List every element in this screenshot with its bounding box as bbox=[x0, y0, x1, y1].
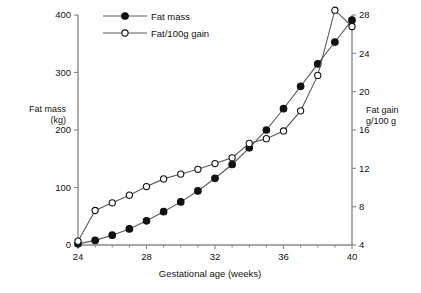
tick-labels-group: 01002003004004812162024282428323640 bbox=[55, 9, 369, 262]
data-point-open bbox=[229, 155, 235, 161]
y-axis-right-title: Fat gain g/100 g bbox=[366, 105, 420, 127]
data-point-filled bbox=[212, 175, 219, 182]
data-point-filled bbox=[195, 188, 202, 195]
data-point-open bbox=[178, 171, 184, 177]
data-point-filled bbox=[263, 127, 270, 134]
data-point-filled bbox=[297, 83, 304, 90]
y-axis-right-tick-label: 8 bbox=[359, 201, 364, 212]
line-chart-canvas: 01002003004004812162024282428323640 bbox=[0, 0, 421, 293]
y-axis-right-tick-label: 28 bbox=[359, 9, 370, 20]
y-axis-right-tick-label: 12 bbox=[359, 163, 370, 174]
legend-item-label-fat-gain: Fat/100g gain bbox=[151, 28, 209, 39]
data-point-filled bbox=[92, 237, 99, 244]
series-line-0 bbox=[78, 20, 352, 244]
legend-item-label-fat-mass: Fat mass bbox=[151, 11, 190, 22]
y-axis-left-title-line1: Fat mass bbox=[8, 104, 66, 115]
x-axis-tick-label: 36 bbox=[278, 251, 289, 262]
y-axis-right-tick-label: 4 bbox=[359, 239, 364, 250]
y-axis-right-title-line1: Fat gain bbox=[366, 105, 420, 116]
data-point-filled bbox=[126, 226, 133, 233]
data-point-open bbox=[92, 207, 98, 213]
data-point-filled bbox=[332, 39, 339, 46]
legend-marker-fat-gain bbox=[122, 30, 128, 36]
y-axis-left-tick-label: 300 bbox=[55, 67, 71, 78]
data-point-filled bbox=[177, 199, 184, 206]
legend-markers-group bbox=[103, 13, 147, 36]
data-point-filled bbox=[349, 17, 356, 24]
data-point-open bbox=[161, 176, 167, 182]
y-axis-left-title: Fat mass (kg) bbox=[8, 104, 66, 126]
data-point-open bbox=[315, 72, 321, 78]
data-point-filled bbox=[280, 105, 287, 112]
y-axis-right-title-line2: g/100 g bbox=[366, 116, 420, 127]
data-point-open bbox=[195, 166, 201, 172]
y-axis-right-tick-label: 20 bbox=[359, 86, 370, 97]
legend-marker-fat-mass bbox=[122, 13, 129, 20]
y-axis-left-tick-label: 200 bbox=[55, 124, 71, 135]
y-axis-right-tick-label: 24 bbox=[359, 48, 370, 59]
data-point-filled bbox=[160, 208, 167, 215]
data-point-open bbox=[280, 128, 286, 134]
data-point-open bbox=[246, 140, 252, 146]
y-axis-left-tick-label: 0 bbox=[66, 239, 71, 250]
data-point-filled bbox=[109, 232, 116, 239]
chart-figure: 01002003004004812162024282428323640 Fat … bbox=[0, 0, 421, 293]
x-axis-tick-label: 24 bbox=[73, 251, 84, 262]
x-axis-tick-label: 28 bbox=[141, 251, 152, 262]
data-point-open bbox=[212, 160, 218, 166]
data-point-open bbox=[143, 183, 149, 189]
data-point-open bbox=[332, 7, 338, 13]
y-axis-left-tick-label: 400 bbox=[55, 9, 71, 20]
data-point-filled bbox=[143, 218, 150, 225]
data-point-open bbox=[349, 23, 355, 29]
data-point-open bbox=[298, 108, 304, 114]
x-axis-title: Gestational age (weeks) bbox=[130, 268, 290, 279]
axes-group bbox=[78, 15, 352, 245]
y-axis-left-tick-label: 100 bbox=[55, 182, 71, 193]
data-point-open bbox=[263, 136, 269, 142]
data-point-open bbox=[126, 192, 132, 198]
data-series-group bbox=[75, 7, 356, 247]
x-axis-tick-label: 40 bbox=[347, 251, 358, 262]
data-point-open bbox=[75, 238, 81, 244]
data-point-open bbox=[109, 200, 115, 206]
data-point-filled bbox=[229, 161, 236, 168]
tick-marks-group bbox=[74, 15, 356, 249]
y-axis-left-title-line2: (kg) bbox=[8, 115, 66, 126]
series-line-1 bbox=[78, 10, 352, 241]
x-axis-tick-label: 32 bbox=[210, 251, 221, 262]
